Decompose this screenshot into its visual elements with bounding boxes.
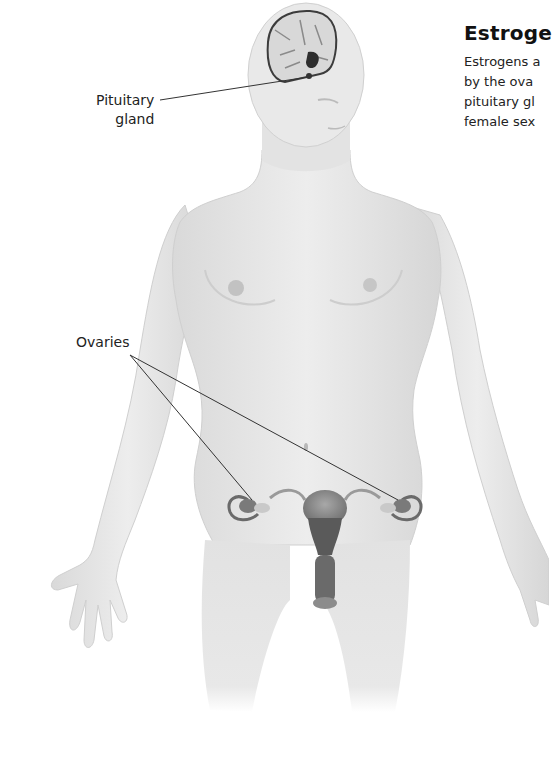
head [248,3,364,171]
legs [202,540,410,712]
nipple-left [228,280,244,296]
pituitary-gland-label: Pituitary gland [96,91,154,129]
vagina [315,555,335,603]
pituitary-label-line2: gland [96,110,154,129]
pituitary-label-line1: Pituitary [96,91,154,110]
body-line: Estrogens a [464,52,540,72]
torso [173,150,441,545]
body-line: pituitary gl [464,92,540,112]
body-line: by the ova [464,72,540,92]
section-body: Estrogens a by the ova pituitary gl fema… [464,52,540,132]
section-heading: Estroge [464,21,552,45]
brain-cutaway [268,11,337,82]
ovaries-label: Ovaries [76,333,129,352]
nipple-right [363,278,377,292]
pituitary-gland-marker [306,73,312,79]
body-line: female sex [464,112,540,132]
